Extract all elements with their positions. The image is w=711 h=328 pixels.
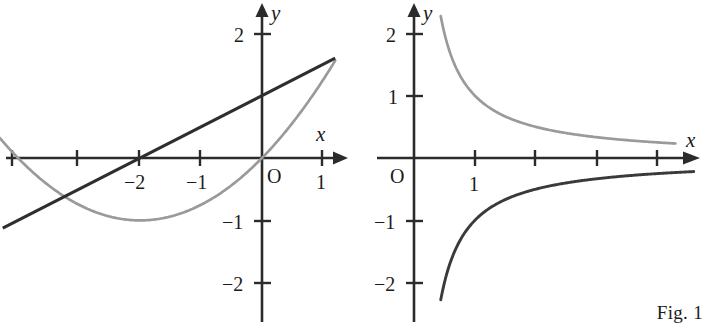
- left-xtick-label-one: 1: [316, 171, 326, 193]
- figure-caption: Fig. 1: [657, 302, 703, 324]
- left-x-axis: [6, 152, 348, 165]
- left-y-axis-label: y: [269, 1, 281, 25]
- right-y-axis: [408, 3, 421, 322]
- right-x-axis-label: x: [685, 128, 696, 152]
- left-straight-line: [3, 58, 335, 228]
- right-x-axis: [377, 152, 700, 165]
- left-xtick-label-minus2: −2: [124, 171, 145, 193]
- right-ytick-label-minus2: −2: [374, 273, 395, 295]
- right-origin-label: O: [390, 165, 404, 187]
- right-ytick-label-one: 1: [388, 86, 398, 108]
- right-xtick-label-one: 1: [469, 173, 479, 195]
- figure-svg: x y O −2 −1 1 2 −1 −2: [0, 0, 711, 328]
- left-origin-label: O: [267, 165, 281, 187]
- left-xtick-label-minus1: −1: [186, 171, 207, 193]
- left-ytick-label-two: 2: [234, 24, 244, 46]
- right-hyperbola-upper: [441, 16, 676, 143]
- left-chart-panel: x y O −2 −1 1 2 −1 −2: [0, 1, 348, 322]
- right-ytick-label-two: 2: [386, 24, 396, 46]
- figure-container: x y O −2 −1 1 2 −1 −2: [0, 0, 711, 328]
- left-x-axis-label: x: [315, 122, 326, 146]
- left-ytick-label-minus2: −2: [222, 273, 243, 295]
- right-y-axis-label: y: [421, 1, 433, 25]
- right-chart-panel: x y O 1 2 1 −1 −2: [374, 1, 700, 322]
- right-ytick-label-minus1: −1: [374, 211, 395, 233]
- left-ytick-label-minus1: −1: [222, 211, 243, 233]
